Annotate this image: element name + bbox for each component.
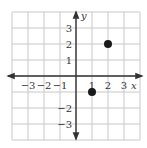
x-tick-labels: −3−2−1123 <box>21 80 128 91</box>
x-tick-label: −3 <box>21 80 36 91</box>
x-tick-label: 3 <box>121 80 127 91</box>
y-tick-label: 2 <box>66 39 72 50</box>
y-tick-label: −3 <box>57 119 72 130</box>
x-axis-label: x <box>131 80 137 91</box>
x-tick-label: −1 <box>53 80 68 91</box>
data-point <box>88 88 96 96</box>
y-tick-label: 1 <box>66 55 72 66</box>
coordinate-plane: −3−2−1123 321−2−3 x y <box>0 0 147 148</box>
y-tick-label: −2 <box>57 103 72 114</box>
x-tick-label: −2 <box>37 80 52 91</box>
x-tick-label: 2 <box>105 80 111 91</box>
data-point <box>104 40 112 48</box>
y-axis-label: y <box>80 10 87 21</box>
y-tick-label: 3 <box>66 23 72 34</box>
